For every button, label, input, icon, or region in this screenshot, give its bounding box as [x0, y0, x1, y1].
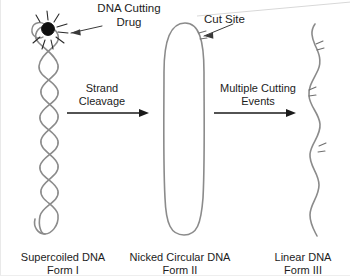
- diagram-canvas: [1, 0, 350, 276]
- form-i-supercoiled-dna: [32, 23, 58, 234]
- caption-supercoiled-dna-form-i: Supercoiled DNA Form I: [3, 251, 123, 276]
- form-iii-linear-dna: [309, 24, 326, 236]
- dna-cutting-drug-label: DNA Cutting Drug: [81, 2, 177, 29]
- supercoil-strand-a: [35, 27, 59, 234]
- drug-core-circle: [42, 23, 55, 36]
- strand-cleavage-label: Strand Cleavage: [64, 82, 140, 108]
- multiple-cutting-events-arrow: [214, 109, 296, 117]
- caption-nicked-circular-dna-form-ii: Nicked Circular DNA Form II: [117, 251, 243, 276]
- cut-site-label: Cut Site: [204, 13, 266, 27]
- linear-strand-outline: [309, 24, 320, 236]
- strand-cleavage-arrow: [67, 109, 149, 117]
- caption-linear-dna-form-iii: Linear DNA Form III: [257, 251, 349, 276]
- dna-cleavage-diagram: DNA Cutting Drug Cut Site Strand Cleavag…: [0, 0, 350, 276]
- form-ii-nicked-circular-dna: [164, 23, 207, 235]
- relaxed-circle-outline: [164, 23, 205, 235]
- multiple-cutting-events-label: Multiple Cutting Events: [209, 82, 307, 108]
